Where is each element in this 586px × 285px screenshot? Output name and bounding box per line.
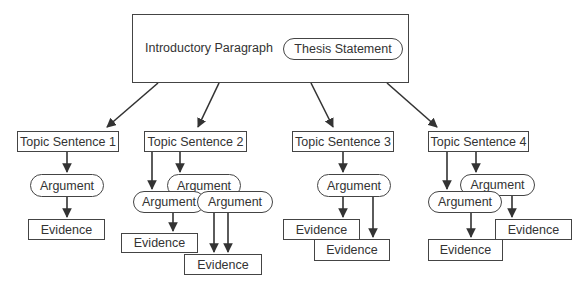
essay-structure-diagram: Introductory Paragraph Thesis Statement … [0, 0, 586, 285]
argument-node-left: Argument [133, 191, 205, 213]
evidence-node-a: Evidence [121, 233, 198, 253]
argument-node: Argument [317, 174, 391, 197]
evidence-node-left: Evidence [428, 239, 503, 261]
evidence-node-right: Evidence [495, 219, 572, 240]
arrow-intro-to-topic-1 [107, 83, 158, 127]
topic-sentence-4: Topic Sentence 4 [428, 131, 529, 152]
argument-node-left: Argument [428, 191, 502, 213]
topic-sentence-1: Topic Sentence 1 [17, 131, 119, 152]
introductory-paragraph-label: Introductory Paragraph [145, 41, 273, 55]
evidence-node: Evidence [28, 219, 105, 240]
arrow-intro-to-topic-2 [198, 83, 219, 127]
thesis-statement-node: Thesis Statement [283, 38, 403, 60]
arrow-intro-to-topic-4 [387, 83, 437, 127]
topic-sentence-2: Topic Sentence 2 [144, 131, 247, 152]
evidence-node-b: Evidence [184, 254, 262, 275]
arrow-intro-to-topic-3 [311, 83, 333, 127]
evidence-node-b: Evidence [314, 239, 390, 261]
argument-node: Argument [30, 174, 104, 197]
evidence-node-a: Evidence [283, 219, 360, 240]
argument-node-right: Argument [197, 191, 273, 213]
topic-sentence-3: Topic Sentence 3 [292, 131, 394, 152]
